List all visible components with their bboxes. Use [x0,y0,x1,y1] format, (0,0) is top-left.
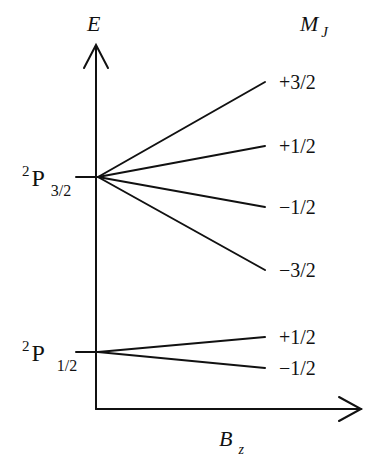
mj-label-p12-minus-1-2: −1/2 [279,357,316,379]
sublevel-line-p12-plus-1-2 [98,337,265,352]
mj-header-main: M [299,11,320,36]
mj-label-p32-plus-1-2: +1/2 [279,135,316,157]
field-label-main: B [219,426,232,451]
mj-column-header: MJ [299,11,329,40]
level-2p12-sub: 1/2 [57,357,77,374]
level-2p32-main: P [32,165,45,191]
level-2p12-main: P [32,340,45,366]
level-2p32-sub: 3/2 [51,182,71,199]
field-label-sub: z [237,442,244,457]
mj-header-sub: J [321,24,329,40]
mj-label-p32-minus-3-2: −3/2 [279,259,316,281]
mj-label-p32-minus-1-2: −1/2 [279,196,316,218]
level-2p12-sup: 2 [22,338,30,354]
level-label-2p32: 2P3/2 [22,163,71,199]
sublevel-line-p32-plus-3-2 [98,82,265,177]
sublevel-line-p12-minus-1-2 [98,352,265,368]
field-axis-label: Bz [219,426,244,457]
level-label-2p12: 2P1/2 [22,338,77,374]
sublevel-line-p32-minus-3-2 [98,177,265,270]
level-2p32-sup: 2 [22,163,30,179]
mj-label-p32-plus-3-2: +3/2 [279,71,316,93]
zeeman-diagram: E MJ Bz 2P3/2 2P1/2 +3/2 +1/2 −1/2 −3/2 … [0,0,391,467]
mj-label-p12-plus-1-2: +1/2 [279,326,316,348]
sublevel-line-p32-plus-1-2 [98,146,265,177]
energy-axis-label: E [86,11,101,36]
